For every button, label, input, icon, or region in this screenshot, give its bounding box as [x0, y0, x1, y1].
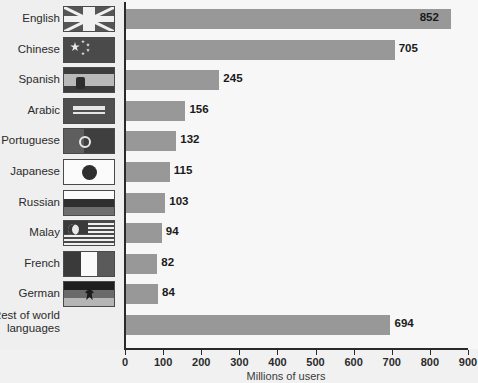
x-tick-mark: [201, 350, 202, 355]
bar: [126, 131, 176, 151]
bar: [126, 9, 451, 29]
bar: [126, 40, 395, 60]
category-label: Portuguese: [0, 134, 60, 147]
flag-portugal-icon: [63, 128, 115, 154]
bar-value-label: 84: [162, 286, 175, 298]
bar-row: French82: [0, 249, 478, 279]
bar-value-label: 245: [223, 72, 242, 84]
bar-row: Rest of world languages694: [0, 310, 478, 340]
x-tick-label: 700: [383, 356, 401, 368]
bar: [126, 223, 162, 243]
bar-row: Arabic156: [0, 96, 478, 126]
bar-row: German84: [0, 279, 478, 309]
x-tick-mark: [163, 350, 164, 355]
x-tick-label: 100: [154, 356, 172, 368]
x-tick-label: 600: [344, 356, 362, 368]
category-label: English: [0, 12, 60, 25]
bar-row: Spanish245: [0, 65, 478, 95]
bar: [126, 162, 170, 182]
x-tick-mark: [392, 350, 393, 355]
bar: [126, 193, 165, 213]
x-tick-label: 400: [268, 356, 286, 368]
bar-row: English852: [0, 4, 478, 34]
x-tick-mark: [125, 350, 126, 355]
bar: [126, 315, 390, 335]
flag-japan-icon: [63, 159, 115, 185]
bar-value-label: 132: [180, 133, 199, 145]
x-tick-mark: [316, 350, 317, 355]
bar-row: Portuguese132: [0, 126, 478, 156]
bar-value-label: 852: [420, 11, 439, 23]
bar-row: Russian103: [0, 188, 478, 218]
x-tick-mark: [430, 350, 431, 355]
flag-saudi-arabia-icon: [63, 98, 115, 124]
bar-value-label: 115: [174, 164, 193, 176]
x-tick-mark: [354, 350, 355, 355]
category-label: Chinese: [0, 43, 60, 56]
x-axis-line: [124, 348, 468, 350]
flag-malaysia-icon: [63, 220, 115, 246]
x-tick-label: 200: [192, 356, 210, 368]
category-label: Arabic: [0, 104, 60, 117]
bar-value-label: 94: [166, 225, 179, 237]
category-label: German: [0, 287, 60, 300]
x-tick-label: 300: [230, 356, 248, 368]
bar-value-label: 82: [161, 256, 174, 268]
bar-value-label: 156: [189, 103, 208, 115]
category-label: French: [0, 257, 60, 270]
category-label: Rest of world languages: [0, 309, 60, 335]
category-label: Malay: [0, 226, 60, 239]
x-tick-label: 500: [306, 356, 324, 368]
x-tick-mark: [468, 350, 469, 355]
bar-value-label: 705: [399, 42, 418, 54]
flag-france-icon: [63, 251, 115, 277]
flag-china-icon: [63, 37, 115, 63]
category-label: Japanese: [0, 165, 60, 178]
x-tick-mark: [239, 350, 240, 355]
language-users-bar-chart: English852Chinese705Spanish245Arabic156P…: [0, 0, 478, 383]
bar-row: Chinese705: [0, 35, 478, 65]
flag-russia-icon: [63, 190, 115, 216]
bar-row: Malay94: [0, 218, 478, 248]
bar-value-label: 103: [169, 195, 188, 207]
bar-value-label: 694: [394, 317, 413, 329]
x-tick-label: 0: [122, 356, 128, 368]
bar-row: Japanese115: [0, 157, 478, 187]
bar: [126, 254, 157, 274]
x-axis-title: Millions of users: [247, 370, 326, 382]
bar: [126, 70, 219, 90]
category-label: Spanish: [0, 73, 60, 86]
category-label: Russian: [0, 196, 60, 209]
x-tick-mark: [277, 350, 278, 355]
flag-spain-icon: [63, 67, 115, 93]
bar: [126, 101, 185, 121]
flag-united-kingdom-icon: [63, 6, 115, 32]
x-tick-label: 900: [459, 356, 477, 368]
flag-germany-icon: [63, 281, 115, 307]
x-tick-label: 800: [421, 356, 439, 368]
bar: [126, 284, 158, 304]
y-axis-line: [124, 2, 126, 349]
